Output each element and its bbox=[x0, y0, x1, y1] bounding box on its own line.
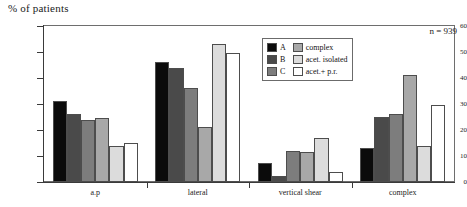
bar bbox=[95, 118, 109, 182]
x-axis-tick bbox=[352, 182, 353, 188]
chart-title: % of patients bbox=[8, 2, 69, 14]
bar bbox=[226, 53, 240, 182]
bar bbox=[198, 127, 212, 182]
legend-swatch-icon bbox=[293, 67, 303, 76]
legend-label: C bbox=[280, 67, 285, 76]
bar bbox=[403, 75, 417, 182]
x-axis-category-label: lateral bbox=[188, 188, 208, 197]
chart-legend: ABCcomplexacet. isolatedacet.+ p.r. bbox=[262, 38, 353, 81]
y-axis-tick bbox=[37, 104, 43, 105]
bar bbox=[360, 148, 374, 182]
y-axis-tick bbox=[37, 52, 43, 53]
x-axis-tick bbox=[147, 182, 148, 188]
x-axis-category-label: a.p bbox=[90, 188, 100, 197]
bar bbox=[389, 114, 403, 182]
legend-swatch-icon bbox=[293, 43, 303, 52]
bar bbox=[329, 172, 343, 182]
bar bbox=[431, 105, 445, 182]
y-axis-tick bbox=[37, 26, 43, 27]
legend-item: C bbox=[267, 66, 286, 77]
bar bbox=[184, 88, 198, 182]
legend-item: complex bbox=[293, 42, 348, 53]
bar bbox=[286, 151, 300, 182]
x-axis-category-label: complex bbox=[389, 188, 417, 197]
bar bbox=[314, 138, 328, 182]
bar bbox=[258, 163, 272, 183]
legend-swatch-icon bbox=[293, 55, 303, 64]
x-axis-tick bbox=[249, 182, 250, 188]
legend-label: B bbox=[280, 55, 285, 64]
bar bbox=[212, 44, 226, 182]
y-axis-tick bbox=[37, 182, 43, 183]
y-axis-tick bbox=[37, 156, 43, 157]
y-axis-tick bbox=[37, 78, 43, 79]
bar bbox=[53, 101, 67, 182]
bar bbox=[155, 62, 169, 182]
legend-label: A bbox=[280, 43, 286, 52]
bar bbox=[124, 143, 138, 182]
legend-label: complex bbox=[306, 43, 334, 52]
legend-item: acet. isolated bbox=[293, 54, 348, 65]
legend-swatch-icon bbox=[267, 67, 277, 76]
bar-chart: % of patients 0102030405060 a.plateralve… bbox=[0, 0, 467, 207]
legend-item: acet.+ p.r. bbox=[293, 66, 348, 77]
bar bbox=[109, 146, 123, 182]
bar bbox=[374, 117, 388, 182]
bar bbox=[272, 176, 286, 183]
legend-swatch-icon bbox=[267, 43, 277, 52]
legend-swatch-icon bbox=[267, 55, 277, 64]
bar bbox=[300, 152, 314, 182]
legend-item: A bbox=[267, 42, 286, 53]
legend-column: ABC bbox=[267, 42, 286, 77]
sample-size-annotation: n = 939 bbox=[429, 26, 457, 36]
bar bbox=[81, 120, 95, 182]
legend-label: acet. isolated bbox=[306, 55, 348, 64]
x-axis-category-label: vertical shear bbox=[279, 188, 322, 197]
legend-label: acet.+ p.r. bbox=[306, 67, 338, 76]
legend-item: B bbox=[267, 54, 286, 65]
legend-column: complexacet. isolatedacet.+ p.r. bbox=[293, 42, 348, 77]
y-axis-tick bbox=[37, 130, 43, 131]
bar bbox=[417, 146, 431, 182]
bar bbox=[169, 68, 183, 182]
bar bbox=[67, 114, 81, 182]
bars-container bbox=[44, 26, 454, 182]
